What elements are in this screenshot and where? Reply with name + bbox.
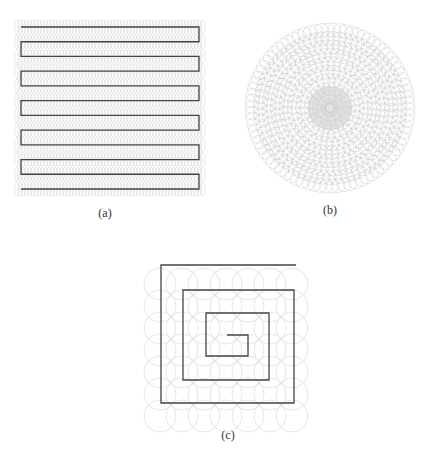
- panel-b-caption: (b): [323, 203, 337, 218]
- panel-a-boustrophedon: [15, 20, 205, 196]
- panel-b-circular: [245, 23, 415, 193]
- panel-a-caption: (a): [98, 206, 111, 221]
- coverage-path-figure: [0, 0, 427, 454]
- panel-c-caption: (c): [221, 428, 234, 443]
- panel-c-spiral: [144, 265, 308, 432]
